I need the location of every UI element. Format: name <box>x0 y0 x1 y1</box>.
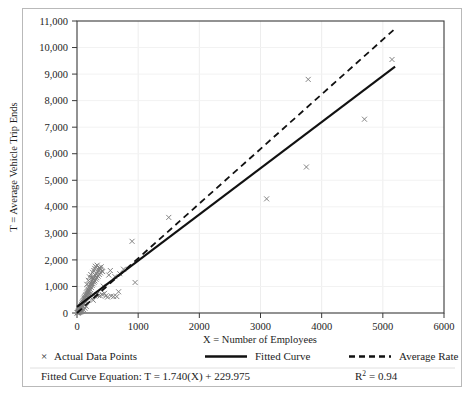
x-axis-tick-labels: 0100020003000400050006000 <box>74 321 454 332</box>
r-squared-annotation: R2= 0.94 <box>355 369 398 382</box>
x-tick-label: 3000 <box>250 321 271 332</box>
x-tick-label: 0 <box>74 321 79 332</box>
y-axis-tick-labels: 01,0002,0003,0004,0005,0006,0007,0008,00… <box>39 16 68 319</box>
x-tick-label: 2000 <box>189 321 210 332</box>
y-tick-label: 4,000 <box>44 201 68 212</box>
y-tick-label: 0 <box>63 308 68 319</box>
y-tick-label: 1,000 <box>44 281 68 292</box>
y-tick-label: 3,000 <box>44 228 68 239</box>
x-tick-label: 5000 <box>372 321 393 332</box>
x-axis-ticks <box>77 313 444 318</box>
x-marker-icon: × <box>41 350 47 362</box>
x-axis-title: X = Number of Employees <box>203 334 317 345</box>
legend-label-fitted-curve: Fitted Curve <box>255 350 310 362</box>
y-tick-label: 6,000 <box>44 148 68 159</box>
legend-label-average-rate: Average Rate <box>399 350 458 362</box>
y-tick-label: 8,000 <box>44 95 68 106</box>
legend-label-actual-data-points: Actual Data Points <box>54 350 137 362</box>
y-tick-label: 7,000 <box>44 122 68 133</box>
x-tick-label: 6000 <box>434 321 455 332</box>
y-axis-title: T = Average Vehicle Trip Ends <box>8 102 19 231</box>
y-axis-ticks <box>72 21 77 313</box>
figure-container: 01,0002,0003,0004,0005,0006,0007,0008,00… <box>0 0 469 395</box>
y-tick-label: 5,000 <box>44 175 68 186</box>
x-tick-label: 4000 <box>311 321 332 332</box>
r-squared-exponent: 2 <box>362 369 366 378</box>
y-tick-label: 2,000 <box>44 255 68 266</box>
y-tick-label: 11,000 <box>40 16 69 27</box>
r-squared-value: = 0.94 <box>369 370 398 382</box>
chart-legend: × Actual Data Points Fitted Curve Averag… <box>41 350 458 362</box>
fitted-curve-equation: Fitted Curve Equation: T = 1.740(X) + 22… <box>41 370 251 383</box>
scatter-chart: 01,0002,0003,0004,0005,0006,0007,0008,00… <box>0 0 469 395</box>
y-tick-label: 9,000 <box>44 69 68 80</box>
y-tick-label: 10,000 <box>39 42 68 53</box>
x-tick-label: 1000 <box>128 321 149 332</box>
